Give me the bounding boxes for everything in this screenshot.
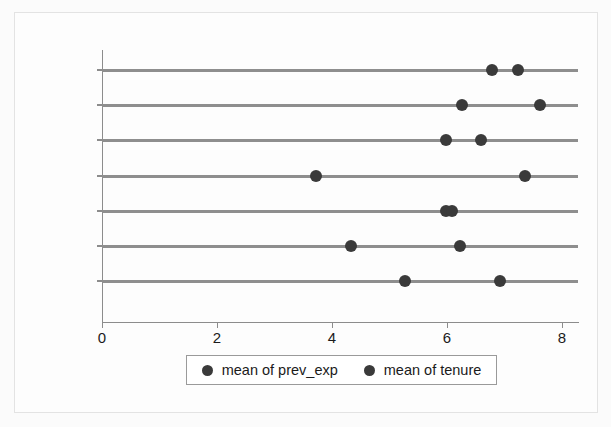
data-point-marker	[512, 64, 524, 76]
data-point-marker	[534, 99, 546, 111]
x-axis-tick	[332, 322, 333, 328]
legend-marker-icon	[364, 365, 375, 376]
x-axis-tick	[562, 322, 563, 328]
category-line	[102, 210, 578, 213]
data-point-marker	[399, 275, 411, 287]
data-point-marker	[519, 170, 531, 182]
x-axis-tick	[102, 322, 103, 328]
x-axis-tick-label: 4	[312, 329, 352, 346]
data-point-marker	[456, 99, 468, 111]
x-axis-tick-label: 8	[542, 329, 582, 346]
chart-row: Mgmt	[102, 104, 578, 107]
x-axis-line	[102, 322, 579, 323]
chart-row: Labor	[102, 245, 578, 248]
figure-background: ProfMgmtSalesCler.Operat.LaborOther02468…	[0, 0, 611, 427]
category-line	[102, 69, 578, 72]
chart-row: Operat.	[102, 210, 578, 213]
data-point-marker	[486, 64, 498, 76]
legend-entry[interactable]: mean of prev_exp	[202, 362, 338, 378]
data-point-marker	[494, 275, 506, 287]
data-point-marker	[440, 134, 452, 146]
x-axis-tick	[447, 322, 448, 328]
category-line	[102, 139, 578, 142]
chart-row: Prof	[102, 69, 578, 72]
data-point-marker	[475, 134, 487, 146]
chart-row: Sales	[102, 139, 578, 142]
x-axis-tick-label: 6	[427, 329, 467, 346]
legend-label: mean of prev_exp	[222, 362, 338, 378]
category-line	[102, 280, 578, 283]
data-point-marker	[446, 205, 458, 217]
chart-legend: mean of prev_expmean of tenure	[186, 355, 497, 385]
x-axis-tick	[217, 322, 218, 328]
legend-marker-icon	[202, 365, 213, 376]
data-point-marker	[310, 170, 322, 182]
category-line	[102, 104, 578, 107]
x-axis-tick-label: 2	[197, 329, 237, 346]
category-line	[102, 175, 578, 178]
data-point-marker	[454, 240, 466, 252]
category-line	[102, 245, 578, 248]
legend-label: mean of tenure	[384, 362, 482, 378]
x-axis-tick-label: 0	[82, 329, 122, 346]
chart-row: Other	[102, 280, 578, 283]
legend-entry[interactable]: mean of tenure	[364, 362, 482, 378]
chart-row: Cler.	[102, 175, 578, 178]
data-point-marker	[345, 240, 357, 252]
